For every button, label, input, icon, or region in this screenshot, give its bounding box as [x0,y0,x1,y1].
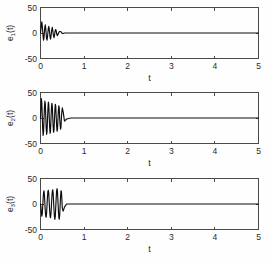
xtick-label-5-e2: 5 [256,146,261,156]
xtick-label-5-e1: 5 [256,61,261,71]
subplot-e3: 50 0 -50 0 1 2 3 4 5 t e3(t) [0,171,271,258]
ytick-label-top-e2: 50 [28,88,38,98]
xtick-label-0-e1: 0 [38,61,43,71]
ytick-label-bottom-e2: -50 [25,139,38,149]
xtick-label-3-e3: 3 [169,232,174,242]
plot-canvas-e3: 50 0 -50 0 1 2 3 4 5 t e3(t) [0,171,271,261]
xtick-label-1-e2: 1 [82,146,87,156]
yaxis-title-e3: e3(t) [5,196,16,212]
plot-canvas-e2: 50 0 -50 0 1 2 3 4 5 t e2(t) [0,85,271,172]
yaxis-title-tail-e2: (t) [5,110,15,118]
series-path-e2 [41,99,259,136]
xtick-label-2-e2: 2 [125,146,130,156]
error-signals-figure: 50 0 -50 0 1 2 3 4 5 t e1(t) [0,0,271,261]
yaxis-title-e1: e1(t) [5,25,16,41]
yaxis-title-tail-e3: (t) [5,196,15,204]
xtick-label-2-e1: 2 [125,61,130,71]
xtick-label-4-e1: 4 [213,61,218,71]
subplot-e1: 50 0 -50 0 1 2 3 4 5 t e1(t) [0,0,271,87]
xtick-label-4-e2: 4 [213,146,218,156]
yaxis-title-e2: e2(t) [5,110,16,126]
xtick-label-3-e1: 3 [169,61,174,71]
xtick-label-1-e3: 1 [82,232,87,242]
series-path-e3 [41,189,259,220]
xtick-label-5-e3: 5 [256,232,261,242]
yaxis-title-tail-e1: (t) [5,25,15,33]
xtick-label-1-e1: 1 [82,61,87,71]
xtick-label-0-e3: 0 [38,232,43,242]
ytick-label-mid-e3: 0 [32,199,37,209]
ytick-label-top-e3: 50 [28,174,38,184]
xtick-label-0-e2: 0 [38,146,43,156]
ytick-label-bottom-e3: -50 [25,225,38,235]
ytick-label-mid-e1: 0 [32,28,37,38]
xtick-label-2-e3: 2 [125,232,130,242]
xaxis-title-e2: t [148,158,151,168]
xaxis-title-e1: t [148,73,151,83]
ytick-label-top-e1: 50 [28,3,38,13]
subplot-e2: 50 0 -50 0 1 2 3 4 5 t e2(t) [0,85,271,172]
ytick-label-bottom-e1: -50 [25,54,38,64]
series-path-e1 [41,22,259,40]
plot-canvas-e1: 50 0 -50 0 1 2 3 4 5 t e1(t) [0,0,271,87]
ytick-label-mid-e2: 0 [32,113,37,123]
xtick-label-3-e2: 3 [169,146,174,156]
xtick-label-4-e3: 4 [213,232,218,242]
xaxis-title-e3: t [148,244,151,254]
